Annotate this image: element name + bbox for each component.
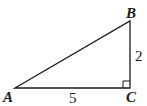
vertex-label-b: B: [125, 5, 136, 21]
side-label-ac: 5: [69, 90, 77, 106]
right-angle-marker: [123, 81, 130, 88]
vertex-label-c: C: [126, 89, 137, 105]
side-label-bc: 2: [135, 48, 143, 64]
triangle-abc: [15, 21, 130, 88]
vertex-label-a: A: [2, 89, 13, 105]
triangle-diagram: A B C 5 2: [0, 0, 147, 106]
